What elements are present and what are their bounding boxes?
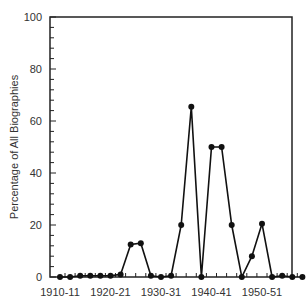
y-axis-title: Percentage of All Biographies [8, 74, 20, 219]
x-tick-label: 1930-31 [141, 286, 181, 298]
line-chart: 020406080100 1910-111920-211930-311940-4… [0, 0, 306, 307]
data-point [229, 222, 235, 228]
series-line [60, 107, 302, 277]
data-point [259, 221, 265, 227]
data-point [148, 273, 154, 279]
data-point [219, 144, 225, 150]
data-series [57, 104, 305, 280]
data-point [138, 240, 144, 246]
y-axis: 020406080100 [24, 11, 56, 283]
y-tick-label: 40 [30, 167, 42, 179]
x-tick-label: 1950-51 [242, 286, 282, 298]
data-point [269, 274, 275, 280]
data-point [209, 144, 215, 150]
data-point [77, 273, 83, 279]
data-point [299, 274, 305, 280]
data-point [118, 271, 124, 277]
x-tick-label: 1940-41 [191, 286, 231, 298]
data-point [128, 242, 134, 248]
y-tick-label: 60 [30, 115, 42, 127]
data-point [108, 273, 114, 279]
y-tick-label: 20 [30, 219, 42, 231]
data-point [67, 274, 73, 280]
data-point [57, 274, 63, 280]
x-tick-label: 1910-11 [40, 286, 80, 298]
y-tick-label: 0 [36, 271, 42, 283]
data-point [188, 104, 194, 110]
data-point [198, 274, 204, 280]
data-point [289, 274, 295, 280]
chart-container: 020406080100 1910-111920-211930-311940-4… [0, 0, 306, 307]
y-tick-label: 100 [24, 11, 42, 23]
data-point [249, 253, 255, 259]
data-point [97, 273, 103, 279]
data-point [87, 273, 93, 279]
data-point [279, 273, 285, 279]
y-tick-label: 80 [30, 63, 42, 75]
x-tick-label: 1920-21 [90, 286, 130, 298]
data-point [239, 274, 245, 280]
data-point [158, 274, 164, 280]
data-point [178, 222, 184, 228]
plot-frame [50, 17, 292, 277]
data-point [168, 273, 174, 279]
